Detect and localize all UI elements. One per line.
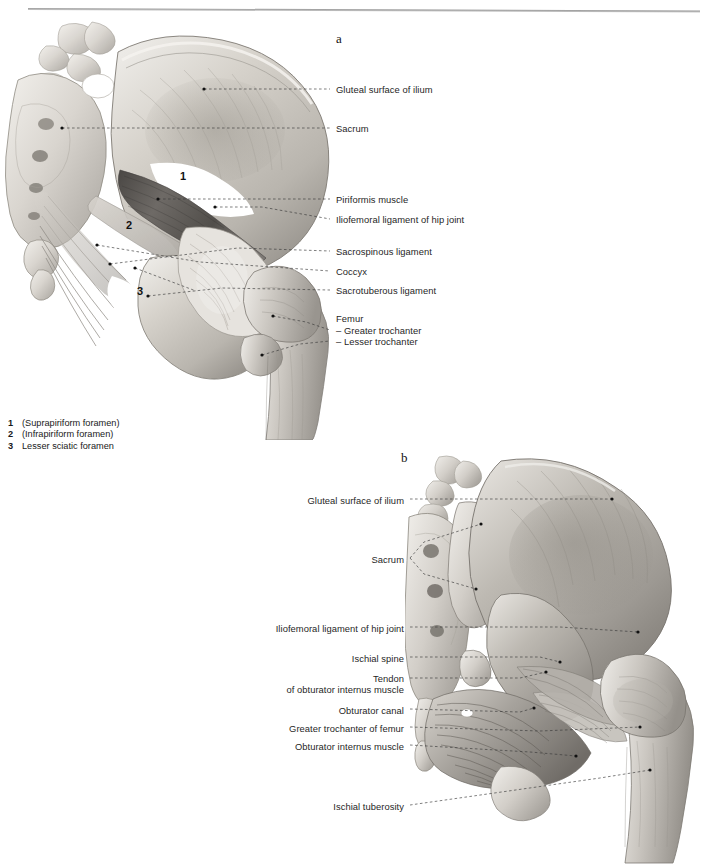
plate-number-2: 2 [126, 219, 132, 231]
legend-item: 1 (Suprapiriform foramen) [8, 418, 120, 429]
label-b-gluteal-surface-of-ilium: Gluteal surface of ilium [204, 495, 404, 507]
label-b-ischial-spine: Ischial spine [204, 653, 404, 665]
header-rule [28, 8, 700, 13]
label-b-tendon: Tendon [204, 673, 404, 685]
label-a-iliofemoral-ligament: Iliofemoral ligament of hip joint [336, 214, 464, 226]
legend-text: (Infrapiriform foramen) [22, 429, 113, 440]
legend-number: 2 [8, 429, 16, 440]
label-a-piriformis-muscle: Piriformis muscle [336, 194, 408, 206]
label-a-sacrotuberous-ligament: Sacrotuberous ligament [336, 285, 436, 297]
figure-b-illustration [405, 455, 714, 865]
figure-b-letter: b [401, 450, 408, 466]
legend-number: 3 [8, 441, 16, 452]
label-b-sacrum: Sacrum [204, 554, 404, 566]
label-a-greater-trochanter: – Greater trochanter [336, 325, 421, 337]
label-a-sacrum: Sacrum [336, 123, 369, 135]
label-b-obturator-internus-muscle: Obturator internus muscle [184, 741, 404, 753]
figure-a-illustration [0, 20, 340, 440]
legend-item: 3 Lesser sciatic foramen [8, 441, 120, 452]
label-a-coccyx: Coccyx [336, 266, 367, 278]
legend-item: 2 (Infrapiriform foramen) [8, 429, 120, 440]
label-a-sacrospinous-ligament: Sacrospinous ligament [336, 246, 432, 258]
label-a-femur: Femur [336, 313, 363, 325]
label-b-iliofemoral-ligament: Iliofemoral ligament of hip joint [204, 623, 404, 635]
label-b-greater-trochanter-of-femur: Greater trochanter of femur [184, 723, 404, 735]
label-b-obturator-canal: Obturator canal [204, 705, 404, 717]
figure-a-letter: a [336, 31, 342, 47]
legend-number: 1 [8, 418, 16, 429]
label-a-gluteal-surface-of-ilium: Gluteal surface of ilium [336, 84, 433, 96]
label-b-ischial-tuberosity: Ischial tuberosity [204, 801, 404, 813]
figure-a-legend: 1 (Suprapiriform foramen) 2 (Infrapirifo… [8, 418, 120, 452]
anatomy-plate-page: a 1 2 3 Gluteal surface of ilium Sacrum … [0, 0, 714, 868]
label-a-lesser-trochanter: – Lesser trochanter [336, 336, 418, 348]
plate-number-1: 1 [180, 170, 186, 182]
header-faint-text [300, 0, 420, 6]
legend-text: Lesser sciatic foramen [22, 441, 114, 452]
plate-number-3: 3 [137, 285, 143, 297]
legend-text: (Suprapiriform foramen) [22, 418, 120, 429]
label-b-tendon-cont: of obturator internus muscle [184, 684, 404, 696]
